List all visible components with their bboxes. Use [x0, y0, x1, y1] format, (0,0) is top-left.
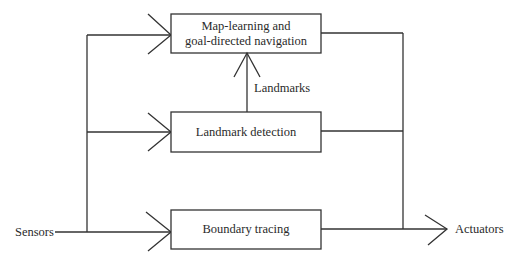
map-learning-line-1: Map-learning and: [201, 19, 291, 33]
arrowhead-icon: [425, 215, 447, 245]
sensors-label: Sensors: [15, 225, 54, 239]
actuator-bus: [321, 33, 447, 245]
boundary-tracing-label: Boundary tracing: [202, 222, 290, 236]
map-learning-line-2: goal-directed navigation: [185, 34, 308, 48]
architecture-diagram: Map-learning and goal-directed navigatio…: [0, 0, 512, 265]
node-landmark-detection: Landmark detection: [171, 112, 321, 152]
actuators-label: Actuators: [455, 222, 504, 236]
sensor-bus: [55, 35, 171, 232]
landmarks-label: Landmarks: [254, 81, 310, 95]
landmark-detection-label: Landmark detection: [196, 125, 297, 139]
arrowhead-icon: [148, 14, 171, 54]
landmarks-edge: Landmarks: [234, 53, 310, 112]
node-boundary-tracing: Boundary tracing: [171, 210, 321, 249]
node-map-learning: Map-learning and goal-directed navigatio…: [171, 14, 321, 53]
